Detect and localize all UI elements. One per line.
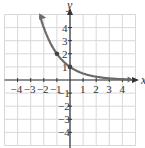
y-tick-label: −4 [58, 126, 70, 138]
data-point [68, 65, 73, 70]
y-tick-label: 3 [62, 35, 68, 47]
x-tick-label: −4 [11, 83, 23, 95]
x-tick-label: −2 [37, 83, 49, 95]
x-tick-label: 3 [106, 83, 112, 95]
plot-area: xy−4−3−2−112344321−1−2−3−4 [0, 0, 145, 148]
y-axis-label: y [66, 0, 73, 12]
x-tick-label: 1 [80, 83, 86, 95]
graph: xy−4−3−2−112344321−1−2−3−4 [0, 0, 145, 148]
y-tick-label: −2 [58, 100, 70, 112]
y-tick-label: −3 [58, 113, 70, 125]
curve [40, 16, 129, 80]
y-tick-label: −1 [58, 87, 70, 99]
y-tick-label: 4 [62, 22, 68, 34]
y-tick-label: 2 [62, 48, 68, 60]
x-axis-label: x [140, 73, 145, 87]
x-tick-label: 4 [119, 83, 125, 95]
x-tick-label: 2 [93, 83, 99, 95]
data-point [55, 52, 60, 57]
x-tick-label: −3 [24, 83, 36, 95]
